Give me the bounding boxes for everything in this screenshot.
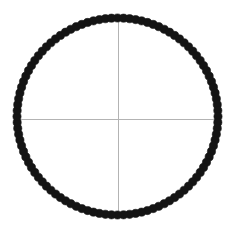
plot-background (0, 0, 233, 229)
plot-canvas (0, 0, 233, 229)
plot-figure (0, 0, 233, 229)
scatter-point (107, 14, 115, 22)
